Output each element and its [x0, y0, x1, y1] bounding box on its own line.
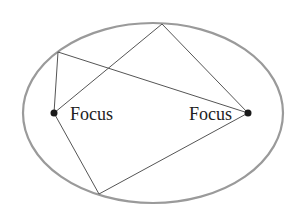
- ellipse-outline: [23, 23, 283, 203]
- right-focus-label: Focus: [189, 104, 232, 124]
- left-focus-label: Focus: [70, 104, 113, 124]
- path-segment-left_focus-to-bottom: [54, 113, 99, 194]
- path-segment-bottom-to-right_focus: [99, 113, 248, 194]
- ellipse-foci-diagram: Focus Focus: [0, 0, 298, 215]
- path-segment-left_focus-to-upper_left: [54, 52, 58, 113]
- right-focus-point: [245, 110, 252, 117]
- left-focus-point: [51, 110, 58, 117]
